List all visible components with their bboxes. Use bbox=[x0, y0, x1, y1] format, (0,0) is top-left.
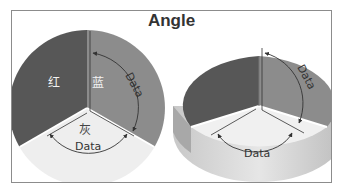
slice-label-gray: 灰 bbox=[79, 123, 91, 137]
slice-label-blue: 蓝 bbox=[92, 76, 104, 90]
angle-label-bottom: Data bbox=[75, 140, 101, 153]
angle-diagram: 红 蓝 灰 Data Data Data bbox=[11, 10, 332, 183]
angle-label-bottom-3d: Data bbox=[244, 147, 270, 160]
figure-title: Angle bbox=[12, 11, 331, 31]
slice-label-red: 红 bbox=[48, 75, 60, 90]
figure-frame: Angle bbox=[11, 10, 332, 183]
left-pie: 红 蓝 灰 Data Data bbox=[11, 30, 165, 183]
right-pie: Data Data bbox=[173, 48, 332, 182]
